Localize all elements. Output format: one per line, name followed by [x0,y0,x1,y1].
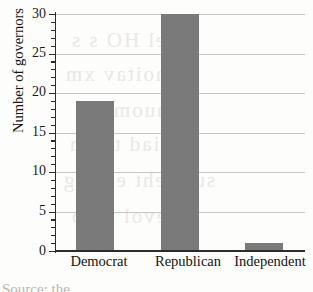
x-label-independent: Independent [227,254,313,270]
cropped-caption-fragment: Source: the [2,281,70,292]
y-tick-label: 5 [39,204,46,218]
y-axis-tick-labels: 30 25 20 15 10 5 0 [0,0,46,292]
x-label-republican: Republican [142,254,234,270]
bar-republican [161,14,199,251]
y-tick-label: 15 [32,125,46,139]
y-tick-label: 20 [32,85,46,99]
y-tick-label: 0 [39,244,46,258]
plot-area [56,14,305,251]
bar-democrat [76,101,114,251]
x-label-democrat: Democrat [56,254,142,270]
y-tick-label: 30 [32,7,46,21]
x-axis-line [55,250,305,252]
y-tick-label: 10 [32,164,46,178]
chart-screenshot: el HO s s c noitav xm o tnuom h r oiad t… [0,0,313,292]
y-tick-label: 25 [32,46,46,60]
